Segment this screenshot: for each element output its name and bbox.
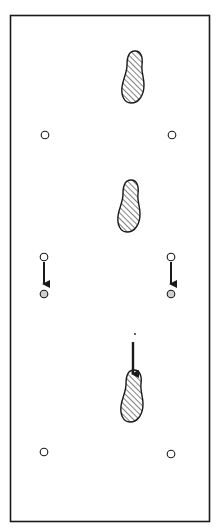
small-dot xyxy=(134,333,136,335)
marker-circle-icon xyxy=(40,253,48,261)
marker-circle-icon xyxy=(167,450,175,458)
marker-circle-icon xyxy=(167,253,175,261)
diagram-frame xyxy=(11,16,210,522)
marker-circle-icon xyxy=(41,131,49,139)
marker-circle-icon xyxy=(40,448,48,456)
marker-circle-filled-icon xyxy=(167,290,175,298)
marker-circle-filled-icon xyxy=(40,290,48,298)
diagram-canvas xyxy=(0,0,221,530)
marker-circle-icon xyxy=(168,131,176,139)
